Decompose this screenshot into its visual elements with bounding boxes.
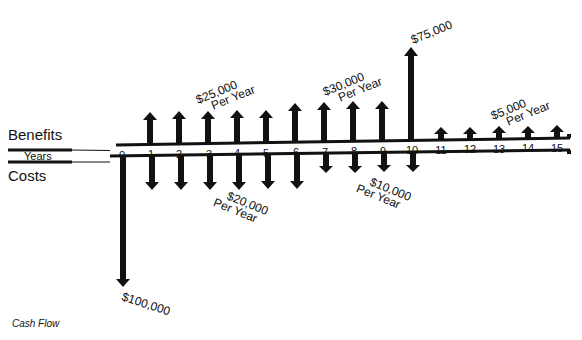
annotation-cost-7-10: $10,000 Per Year bbox=[354, 171, 413, 214]
tick-7: 7 bbox=[322, 146, 328, 158]
cost-arrow-year-0 bbox=[116, 156, 130, 287]
svg-text:$75,000: $75,000 bbox=[409, 17, 455, 46]
benefit-arrow-year-5 bbox=[259, 110, 273, 143]
annotation-benefit-11-15: $5,000 Per Year bbox=[489, 88, 552, 133]
benefit-arrow-year-7 bbox=[317, 102, 331, 142]
annotation-benefit-1-6: $25,000 Per Year bbox=[194, 72, 257, 117]
benefit-arrow-year-2 bbox=[172, 111, 186, 145]
tick-9: 9 bbox=[380, 145, 386, 157]
benefit-arrow-year-4 bbox=[230, 110, 244, 144]
tick-8: 8 bbox=[351, 145, 357, 157]
diagram-caption: Cash Flow bbox=[12, 318, 59, 329]
tick-1: 1 bbox=[148, 148, 154, 160]
cash-flow-diagram: Benefits Costs Years 0 1 2 3 4 5 6 7 8 9… bbox=[0, 0, 582, 340]
cost-arrow-year-6 bbox=[290, 154, 304, 189]
benefit-arrow-year-8 bbox=[346, 101, 360, 142]
benefit-arrow-year-3 bbox=[201, 111, 215, 144]
benefits-label: Benefits bbox=[8, 126, 62, 143]
tick-5: 5 bbox=[263, 147, 269, 159]
tick-13: 13 bbox=[493, 143, 505, 155]
cost-arrow-year-2 bbox=[174, 155, 188, 190]
benefit-arrow-year-14 bbox=[521, 126, 535, 139]
annotation-cost-0: $100,000 bbox=[120, 290, 172, 319]
tick-15: 15 bbox=[551, 142, 563, 154]
tick-14: 14 bbox=[522, 142, 534, 154]
tick-3: 3 bbox=[206, 148, 212, 160]
cost-arrow-year-4 bbox=[232, 155, 246, 190]
cost-arrow-year-1 bbox=[145, 156, 159, 190]
tick-2: 2 bbox=[176, 148, 182, 160]
annotation-cost-1-6: $20,000 Per Year bbox=[211, 185, 270, 228]
benefit-arrow-year-6 bbox=[288, 103, 302, 143]
benefit-arrow-year-1 bbox=[143, 112, 157, 145]
benefit-arrow-year-13 bbox=[492, 126, 506, 139]
svg-text:$100,000: $100,000 bbox=[120, 290, 172, 319]
tick-6: 6 bbox=[293, 146, 299, 158]
axis-label-years: Years bbox=[24, 150, 52, 162]
cost-arrow-year-5 bbox=[261, 154, 275, 189]
cost-arrow-year-3 bbox=[203, 155, 217, 190]
tick-11: 11 bbox=[435, 144, 446, 156]
costs-label: Costs bbox=[8, 167, 46, 184]
tick-10: 10 bbox=[406, 144, 418, 156]
benefit-arrow-year-11 bbox=[434, 127, 448, 140]
tick-12: 12 bbox=[464, 143, 476, 155]
tick-0: 0 bbox=[119, 149, 125, 161]
benefit-arrow-year-9 bbox=[375, 101, 389, 141]
benefit-arrow-year-10 bbox=[404, 47, 418, 141]
annotation-benefit-10: $75,000 bbox=[409, 17, 455, 46]
tick-4: 4 bbox=[234, 147, 240, 159]
cost-arrows bbox=[116, 152, 420, 287]
benefit-arrow-year-15 bbox=[550, 125, 564, 138]
